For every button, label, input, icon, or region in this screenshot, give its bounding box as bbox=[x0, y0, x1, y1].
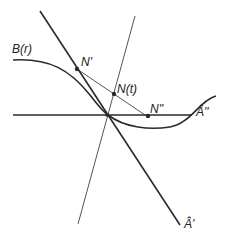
point-origin bbox=[105, 113, 109, 117]
label-n-prime: N' bbox=[81, 56, 92, 68]
label-n-double: N'' bbox=[150, 103, 163, 115]
label-n-t: N(t) bbox=[117, 83, 137, 95]
axis-a-prime bbox=[40, 11, 180, 225]
thin-line bbox=[78, 16, 135, 224]
diagram-canvas bbox=[0, 0, 225, 239]
diagram: B(r) N' N(t) N'' Â'' Â' bbox=[0, 0, 225, 239]
label-curve: B(r) bbox=[12, 43, 32, 55]
point-n-t bbox=[112, 92, 116, 96]
label-a-double: Â'' bbox=[196, 106, 209, 118]
label-a-prime: Â' bbox=[184, 218, 194, 230]
point-n-prime bbox=[75, 67, 79, 71]
